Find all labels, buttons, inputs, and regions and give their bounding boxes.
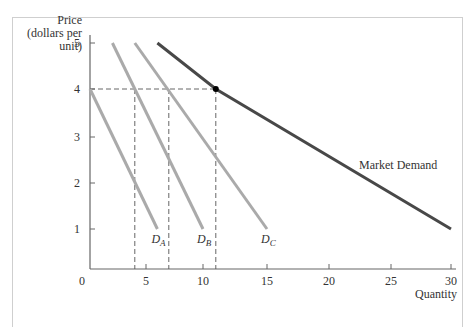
curve-label-subscript: A bbox=[159, 238, 166, 248]
curve-labels: DADBDCMarket Demand bbox=[150, 158, 437, 248]
demand-curve-b bbox=[112, 43, 203, 229]
demand-curves bbox=[90, 43, 451, 229]
x-tick-label: 10 bbox=[197, 274, 209, 288]
y-tick-label: 3 bbox=[74, 130, 80, 144]
equilibrium-point-marker bbox=[213, 86, 219, 92]
curve-label-db: DB bbox=[196, 232, 212, 248]
y-tick-label: 2 bbox=[74, 176, 80, 190]
demand-curve-a bbox=[90, 89, 157, 229]
x-tick-label: 5 bbox=[143, 274, 149, 288]
x-tick-label: 15 bbox=[261, 274, 273, 288]
demand-curve-c bbox=[135, 43, 267, 229]
y-tick-label: 1 bbox=[74, 222, 80, 236]
curve-label-da: DA bbox=[150, 232, 166, 248]
y-tick-label: 5 bbox=[74, 36, 80, 50]
curve-label-dc: DC bbox=[260, 232, 277, 248]
x-tick-label: 30 bbox=[445, 274, 457, 288]
y-tick-label: 4 bbox=[74, 82, 80, 96]
market-demand-label: Market Demand bbox=[359, 158, 437, 172]
x-tick-label: 20 bbox=[323, 274, 335, 288]
x-tick-label: 0 bbox=[79, 274, 85, 288]
curve-label-subscript: C bbox=[270, 238, 277, 248]
curve-label-subscript: B bbox=[206, 238, 212, 248]
x-tick-label: 25 bbox=[385, 274, 397, 288]
